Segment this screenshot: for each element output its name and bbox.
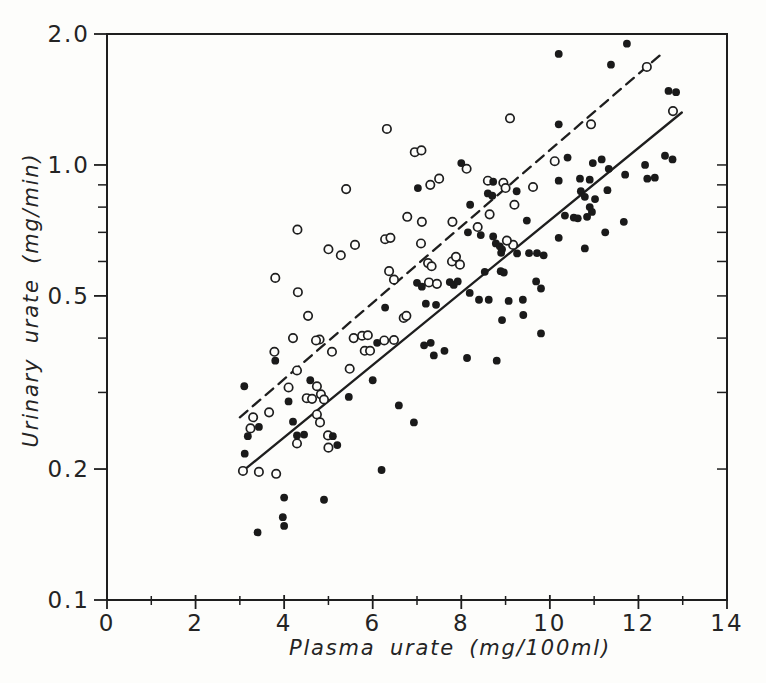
open-circle-point bbox=[510, 201, 518, 209]
filled-circle-point bbox=[525, 249, 533, 257]
filled-circle-point bbox=[489, 233, 497, 241]
open-circle-point bbox=[435, 174, 443, 182]
open-circle-point bbox=[324, 443, 332, 451]
filled-circle-point bbox=[564, 154, 572, 162]
filled-circle-point bbox=[555, 234, 563, 242]
filled-circle-point bbox=[485, 296, 493, 304]
filled-circle-point bbox=[523, 217, 531, 225]
open-circle-point bbox=[390, 336, 398, 344]
open-circle-point bbox=[351, 241, 359, 249]
open-circle-point bbox=[304, 312, 312, 320]
filled-circle-point bbox=[519, 311, 527, 319]
filled-circle-point bbox=[555, 120, 563, 128]
open-circle-point bbox=[284, 383, 292, 391]
filled-circle-point bbox=[500, 269, 508, 277]
open-circle-point bbox=[320, 395, 328, 403]
open-circle-point bbox=[386, 234, 394, 242]
y-tick-label: 2.0 bbox=[47, 21, 90, 47]
open-circle-point bbox=[587, 120, 595, 128]
open-circle-point bbox=[308, 395, 316, 403]
x-tick-label: 14 bbox=[710, 610, 743, 636]
filled-circle-point bbox=[395, 402, 403, 410]
open-circle-point bbox=[426, 181, 434, 189]
open-circle-point bbox=[433, 280, 441, 288]
open-circle-point bbox=[425, 278, 433, 286]
filled-circle-point bbox=[420, 341, 428, 349]
open-circle-point bbox=[417, 239, 425, 247]
filled-circle-point bbox=[561, 212, 569, 220]
open-circle-point bbox=[403, 213, 411, 221]
open-circle-point bbox=[328, 348, 336, 356]
filled-circle-point bbox=[481, 268, 489, 276]
open-circle-point bbox=[427, 262, 435, 270]
filled-circle-point bbox=[540, 251, 548, 259]
filled-circle-point bbox=[475, 296, 483, 304]
filled-circle-point bbox=[240, 382, 248, 390]
filled-circle-point bbox=[441, 347, 449, 355]
open-circle-point bbox=[249, 413, 257, 421]
filled-circle-point bbox=[333, 441, 341, 449]
filled-circle-point bbox=[555, 177, 563, 185]
open-circle-point bbox=[272, 470, 280, 478]
filled-circle-point bbox=[605, 165, 613, 173]
filled-circle-point bbox=[457, 159, 465, 167]
open-circle-point bbox=[345, 365, 353, 373]
filled-circle-point bbox=[607, 61, 615, 69]
filled-circle-point bbox=[621, 171, 629, 179]
filled-circle-point bbox=[581, 193, 589, 201]
filled-circle-point bbox=[505, 297, 513, 305]
open-circle-point bbox=[383, 125, 391, 133]
filled-circle-point bbox=[493, 357, 501, 365]
filled-circle-point bbox=[477, 231, 485, 239]
x-tick-label: 8 bbox=[453, 610, 470, 636]
filled-circle-point bbox=[643, 175, 651, 183]
y-tick-label: 0.1 bbox=[47, 587, 90, 613]
x-tick-label: 2 bbox=[187, 610, 204, 636]
open-circle-point bbox=[418, 218, 426, 226]
open-circle-point bbox=[473, 223, 481, 231]
filled-circle-point bbox=[537, 330, 545, 338]
open-circle-point bbox=[417, 146, 425, 154]
open-circle-point bbox=[312, 336, 320, 344]
open-circle-point bbox=[643, 63, 651, 71]
filled-circle-point bbox=[280, 522, 288, 530]
filled-circle-point bbox=[254, 529, 262, 537]
filled-circle-point bbox=[345, 393, 353, 401]
filled-circle-point bbox=[454, 277, 462, 285]
open-circle-point bbox=[239, 467, 247, 475]
filled-circle-point bbox=[672, 88, 680, 96]
open-circle-point bbox=[456, 260, 464, 268]
y-tick-label: 0.2 bbox=[47, 456, 90, 482]
filled-circle-point bbox=[255, 423, 263, 431]
filled-circle-point bbox=[555, 50, 563, 58]
filled-circle-point bbox=[601, 228, 609, 236]
filled-circle-point bbox=[669, 155, 677, 163]
open-circle-point bbox=[324, 245, 332, 253]
open-circle-point bbox=[265, 408, 273, 416]
open-circle-point bbox=[246, 424, 254, 432]
filled-circle-point bbox=[576, 175, 584, 183]
filled-circle-point bbox=[306, 376, 314, 384]
filled-circle-point bbox=[464, 228, 472, 236]
open-circle-point bbox=[293, 366, 301, 374]
filled-circle-point bbox=[378, 466, 386, 474]
filled-circle-point bbox=[320, 496, 328, 504]
open-circle-point bbox=[669, 107, 677, 115]
filled-circle-point bbox=[497, 249, 505, 257]
filled-circle-point bbox=[661, 152, 669, 160]
filled-circle-point bbox=[289, 418, 297, 426]
filled-circle-point bbox=[583, 213, 591, 221]
open-circle-point bbox=[255, 468, 263, 476]
filled-circle-point bbox=[293, 431, 301, 439]
open-circle-point bbox=[529, 183, 537, 191]
open-circle-point bbox=[503, 236, 511, 244]
open-circle-point bbox=[506, 114, 514, 122]
filled-circle-point bbox=[373, 339, 381, 347]
open-circle-point bbox=[448, 218, 456, 226]
figure: 024681012142.01.00.50.20.1 Plasma urate … bbox=[0, 0, 766, 683]
filled-circle-point bbox=[581, 244, 589, 252]
y-tick-label: 1.0 bbox=[47, 152, 90, 178]
filled-circle-point bbox=[488, 192, 496, 200]
x-tick-label: 12 bbox=[622, 610, 655, 636]
filled-circle-point bbox=[533, 249, 541, 257]
